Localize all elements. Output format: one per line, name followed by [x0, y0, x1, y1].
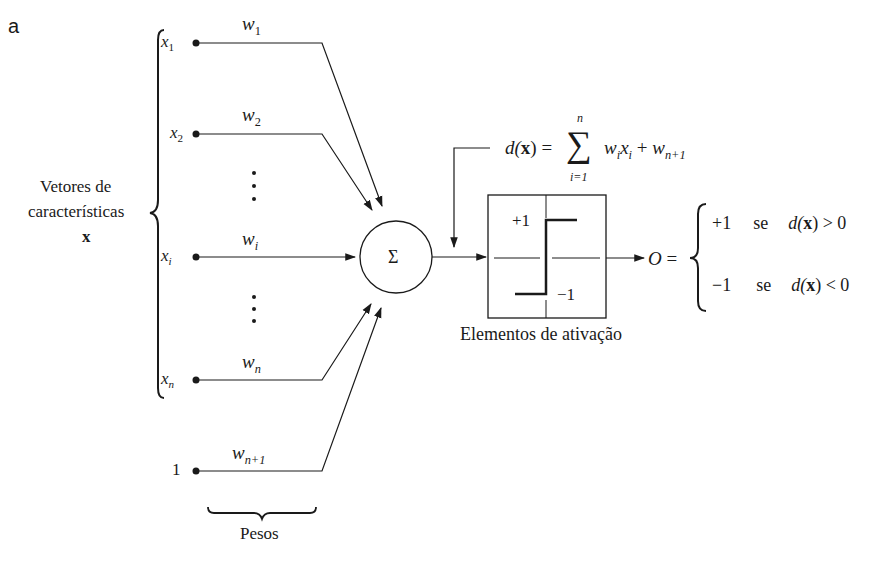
feature-vector-symbol: x [82, 228, 91, 245]
sigma-lower: i=1 [570, 171, 587, 183]
step-function [515, 220, 577, 294]
weight-line-1 [196, 43, 382, 206]
ellipsis-dot [252, 307, 256, 311]
ellipsis-dot [252, 319, 256, 323]
ellipsis-dot [252, 295, 256, 299]
weight-label-wn: wn [242, 352, 261, 375]
feature-vector-label-line1: Vetores de [40, 178, 111, 195]
weight-label-bias: wn+1 [232, 443, 265, 466]
activation-plus-label: +1 [512, 212, 530, 229]
ellipsis-dot [252, 184, 256, 188]
sigma-symbol: ∑ [566, 126, 592, 162]
weight-label-w1: w1 [242, 14, 261, 37]
output-case-positive: +1sed(x) > 0 [712, 214, 846, 232]
weights-caption: Pesos [240, 525, 279, 542]
input-label-bias: 1 [172, 461, 181, 478]
feature-vector-label-line2: características [28, 203, 124, 220]
input-label-xi: xi [161, 247, 172, 267]
output-case-negative: −1sed(x) < 0 [712, 276, 849, 294]
feature-brace [150, 30, 164, 398]
formula-pointer [454, 148, 490, 247]
ellipsis-dot [252, 197, 256, 201]
panel-label: a [8, 16, 19, 36]
input-label-xn: xn [161, 370, 174, 390]
input-label-x2: x2 [170, 124, 183, 144]
summation-symbol: Σ [388, 248, 398, 266]
weight-line-2 [196, 134, 372, 210]
output-symbol: O = [648, 249, 677, 268]
weight-label-wi: wi [242, 229, 258, 252]
input-label-x1: x1 [161, 33, 174, 53]
sigma-upper: n [577, 112, 583, 124]
output-brace [690, 204, 706, 311]
weights-brace [208, 507, 316, 519]
weight-label-w2: w2 [242, 105, 261, 128]
activation-caption: Elementos de ativação [460, 325, 622, 343]
ellipsis-dot [252, 171, 256, 175]
activation-minus-label: −1 [557, 286, 575, 303]
weight-line-n [196, 304, 371, 380]
